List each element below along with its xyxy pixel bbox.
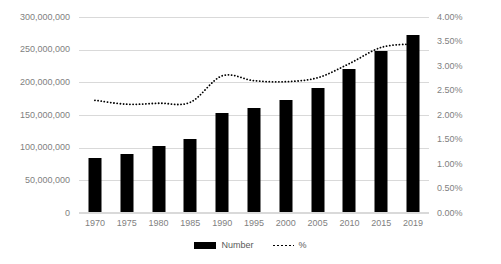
x-axis-tick-label: 1990 bbox=[212, 218, 232, 228]
left-axis-tick: 50,000,000 bbox=[25, 176, 70, 185]
plot-area bbox=[79, 17, 429, 213]
x-axis-labels: 1970197519801985199019952000200520102015… bbox=[79, 218, 429, 232]
x-axis-tick-label: 2005 bbox=[308, 218, 328, 228]
right-axis-tick: 0.00% bbox=[437, 209, 463, 218]
x-axis-tick-label: 1985 bbox=[180, 218, 200, 228]
right-axis-tick: 1.00% bbox=[437, 160, 463, 169]
x-axis-tick-label: 2015 bbox=[371, 218, 391, 228]
gridline bbox=[79, 213, 429, 214]
x-axis-tick-label: 2019 bbox=[403, 218, 423, 228]
right-axis-tick: 3.50% bbox=[437, 37, 463, 46]
right-axis-tick: 0.50% bbox=[437, 184, 463, 193]
line-series-percent bbox=[79, 17, 429, 213]
left-axis-tick: 0 bbox=[65, 209, 70, 218]
chart-container: 050,000,000100,000,000150,000,000200,000… bbox=[0, 0, 501, 264]
left-axis-tick: 150,000,000 bbox=[20, 111, 70, 120]
left-axis-tick: 300,000,000 bbox=[20, 13, 70, 22]
right-axis-tick: 3.00% bbox=[437, 62, 463, 71]
right-axis-tick: 2.00% bbox=[437, 111, 463, 120]
right-axis-tick: 2.50% bbox=[437, 86, 463, 95]
legend-label-number: Number bbox=[221, 240, 253, 250]
left-axis-tick: 200,000,000 bbox=[20, 78, 70, 87]
right-axis-tick: 4.00% bbox=[437, 13, 463, 22]
x-axis-tick-label: 1970 bbox=[85, 218, 105, 228]
legend-label-percent: % bbox=[299, 240, 307, 250]
x-axis-tick-label: 2000 bbox=[276, 218, 296, 228]
right-axis-tick: 1.50% bbox=[437, 135, 463, 144]
x-axis-tick-label: 1995 bbox=[244, 218, 264, 228]
legend-dotted-line-swatch-icon bbox=[272, 242, 294, 249]
x-axis-tick-label: 2010 bbox=[339, 218, 359, 228]
legend-bar-swatch-icon bbox=[194, 242, 216, 249]
legend-item-percent[interactable]: % bbox=[272, 240, 307, 250]
percent-line-path bbox=[95, 44, 413, 105]
axis-baseline bbox=[79, 212, 429, 213]
right-axis: 0.00%0.50%1.00%1.50%2.00%2.50%3.00%3.50%… bbox=[433, 17, 499, 213]
chart-legend: Number % bbox=[0, 240, 501, 250]
x-axis-tick-label: 1975 bbox=[117, 218, 137, 228]
left-axis-tick: 100,000,000 bbox=[20, 143, 70, 152]
x-axis-tick-label: 1980 bbox=[149, 218, 169, 228]
left-axis: 050,000,000100,000,000150,000,000200,000… bbox=[2, 17, 74, 213]
left-axis-tick: 250,000,000 bbox=[20, 45, 70, 54]
legend-item-number[interactable]: Number bbox=[194, 240, 253, 250]
